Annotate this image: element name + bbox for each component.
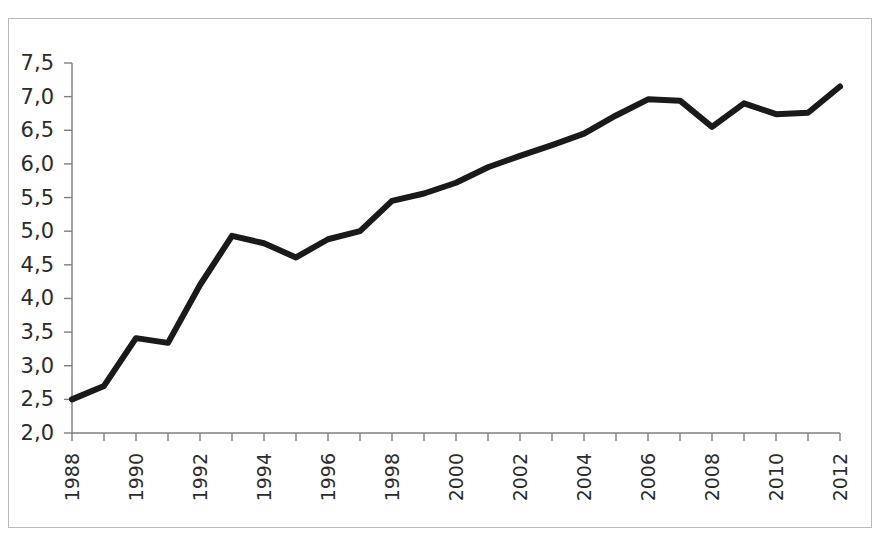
y-tick-label: 3,5 (21, 320, 54, 344)
x-tick-label: 2006 (637, 453, 659, 501)
x-tick-label: 1992 (189, 453, 211, 501)
x-axis-tick-labels: 1988199019921994199619982000200220042006… (61, 453, 851, 501)
x-tick-label: 1996 (317, 453, 339, 501)
x-tick-label: 2004 (573, 453, 595, 501)
y-axis-ticks (64, 63, 72, 433)
y-tick-label: 4,5 (21, 253, 54, 277)
x-axis-ticks (72, 433, 840, 441)
y-tick-label: 6,0 (21, 152, 54, 176)
x-tick-label: 1998 (381, 453, 403, 501)
y-tick-label: 2,5 (21, 387, 54, 411)
x-tick-label: 2000 (445, 453, 467, 501)
y-tick-label: 6,5 (21, 118, 54, 142)
y-tick-label: 7,5 (21, 51, 54, 75)
x-tick-label: 2012 (829, 453, 851, 501)
y-tick-label: 7,0 (21, 85, 54, 109)
chart-container: 2,02,53,03,54,04,55,05,56,06,57,07,5 198… (0, 0, 884, 544)
y-axis-tick-labels: 2,02,53,03,54,04,55,05,56,06,57,07,5 (21, 51, 54, 445)
x-tick-label: 2008 (701, 453, 723, 501)
y-tick-label: 3,0 (21, 354, 54, 378)
line-chart: 2,02,53,03,54,04,55,05,56,06,57,07,5 198… (0, 0, 884, 544)
x-tick-label: 1990 (125, 453, 147, 501)
y-tick-label: 2,0 (21, 421, 54, 445)
x-tick-label: 1994 (253, 453, 275, 501)
x-tick-label: 2002 (509, 453, 531, 501)
y-tick-label: 5,0 (21, 219, 54, 243)
y-tick-label: 4,0 (21, 286, 54, 310)
y-tick-label: 5,5 (21, 186, 54, 210)
x-tick-label: 2010 (765, 453, 787, 501)
x-tick-label: 1988 (61, 453, 83, 501)
data-series-line (72, 87, 840, 400)
